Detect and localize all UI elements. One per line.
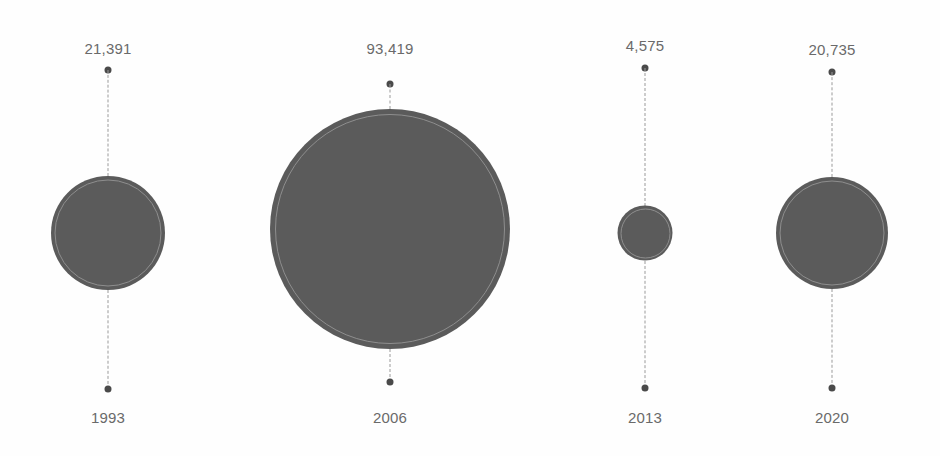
top-connector-line [832,72,833,177]
year-label: 2020 [815,409,849,426]
bubble-group: 20,7352020 [0,0,940,456]
bottom-connector-line [832,289,833,388]
data-bubble[interactable] [776,177,888,289]
bubble-chart: 21,391199393,41920064,575201320,7352020 [0,0,940,456]
bottom-dot-marker [829,385,836,392]
value-label: 20,735 [808,41,855,58]
bubble-inner-ring [780,181,885,286]
